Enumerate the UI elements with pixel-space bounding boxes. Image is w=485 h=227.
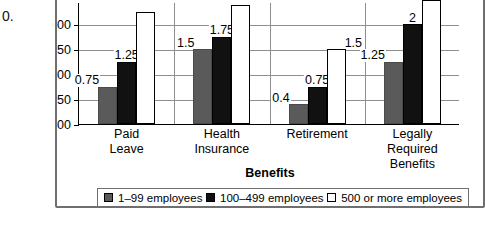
- bar-2-2: 1.5: [327, 49, 346, 124]
- legend-item-1: 100–499 employees: [206, 192, 324, 204]
- y-axis-tick: [74, 125, 79, 126]
- y-axis-tick-label: $0.00: [55, 118, 71, 132]
- bar-1-2: 0.75: [308, 87, 327, 124]
- plot-area: $0.00$0.50$1.00$1.50$2.000.751.25Paid Le…: [78, 3, 459, 125]
- legend-item-2: 500 or more employees: [327, 192, 462, 204]
- legend-label-1: 100–499 employees: [220, 192, 324, 204]
- legend-label-2: 500 or more employees: [341, 192, 462, 204]
- bar-value-label: 1.5: [176, 37, 195, 50]
- bar-value-label: 0.4: [271, 92, 290, 105]
- y-axis-tick-label: $1.00: [55, 68, 71, 82]
- group-separator: [365, 3, 366, 124]
- x-axis-title: Benefits: [57, 166, 483, 180]
- bar-0-3: 1.25: [384, 62, 403, 124]
- chart-frame: Cost of Benefits $0.00$0.50$1.00$1.50$2.…: [55, 0, 485, 208]
- bar-2-3: [422, 0, 441, 124]
- legend-swatch-white-icon: [327, 193, 336, 202]
- legend-swatch-gray-icon: [104, 193, 113, 202]
- legend-swatch-black-icon: [206, 193, 215, 202]
- group-separator: [174, 3, 175, 124]
- x-axis-category-label: Health Insurance: [194, 127, 249, 157]
- legend-label-0: 1–99 employees: [118, 192, 202, 204]
- bar-0-0: 0.75: [98, 87, 117, 124]
- legend-item-0: 1–99 employees: [104, 192, 202, 204]
- y-axis-tick: [74, 50, 79, 51]
- bar-0-1: 1.5: [193, 49, 212, 124]
- bar-value-label: 2: [408, 12, 417, 25]
- y-axis-tick-label: $2.00: [55, 18, 71, 32]
- bar-1-1: 1.75: [212, 37, 231, 124]
- bar-0-2: 0.4: [289, 104, 308, 124]
- bar-1-0: 1.25: [117, 62, 136, 124]
- x-axis-category-label: Paid Leave: [110, 127, 144, 157]
- bar-value-label: 1.25: [360, 49, 386, 62]
- y-axis-tick: [74, 100, 79, 101]
- y-axis-tick: [74, 25, 79, 26]
- figure-number-fragment: 0.: [2, 8, 14, 24]
- bar-1-3: 2: [403, 24, 422, 124]
- chart-legend: 1–99 employees 100–499 employees 500 or …: [97, 188, 469, 207]
- bar-2-0: [136, 12, 155, 124]
- bar-value-label: 0.75: [74, 74, 100, 87]
- group-separator: [270, 3, 271, 124]
- x-axis-category-label: Retirement: [287, 127, 348, 142]
- bar-2-1: [231, 5, 250, 125]
- y-axis-tick-label: $1.50: [55, 43, 71, 57]
- y-axis-tick-label: $0.50: [55, 93, 71, 107]
